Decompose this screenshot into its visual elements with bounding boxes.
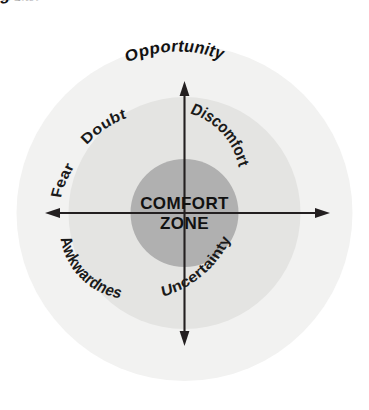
outer-label-exploration: Exploration xyxy=(0,0,49,4)
comfort-zone-diagram: COMFORT ZONE Doubt Discomfort Fear Awkwa… xyxy=(0,0,369,410)
core-label-line2: ZONE xyxy=(160,214,209,233)
core-label-line1: COMFORT xyxy=(140,194,229,213)
comfort-zone-canvas: COMFORT ZONE Doubt Discomfort Fear Awkwa… xyxy=(0,0,369,410)
